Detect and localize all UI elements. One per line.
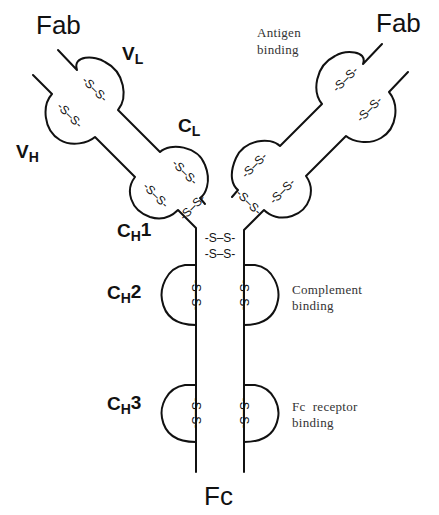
fc-receptor-binding-label: Fc receptor binding — [292, 399, 375, 430]
complement-binding-label: Complement binding — [292, 282, 366, 313]
vl-label: VL — [122, 43, 144, 67]
svg-text:-S–S-: -S–S- — [237, 398, 251, 429]
svg-text:-S–S-: -S–S- — [189, 398, 203, 429]
ss-ch2-left: -S–S- — [189, 280, 203, 311]
svg-text:-S–S-: -S–S- — [169, 156, 201, 188]
svg-text:-S–S-: -S–S- — [54, 99, 86, 131]
svg-text:-S–S-: -S–S- — [266, 175, 298, 207]
svg-text:-S–S-: -S–S- — [189, 280, 203, 311]
ch2-label: CH2 — [107, 281, 141, 306]
svg-text:-S–S-: -S–S- — [353, 93, 385, 125]
svg-text:-S–S-: -S–S- — [140, 179, 172, 211]
ss-ch1-right: -S–S- — [266, 175, 298, 207]
ss-cl: -S–S- — [169, 156, 201, 188]
cl-label: CL — [178, 115, 201, 139]
ss-ch3-left: -S–S- — [189, 398, 203, 429]
fab-left-label: Fab — [36, 10, 81, 40]
ch3-label: CH3 — [107, 392, 141, 417]
ss-ch2-right: -S–S- — [237, 280, 251, 311]
ss-vh: -S–S- — [54, 99, 86, 131]
fc-label: Fc — [204, 481, 233, 511]
svg-text:-S–S-: -S–S- — [237, 280, 251, 311]
ss-vl-right: -S–S- — [329, 63, 361, 95]
svg-text:-S–S-: -S–S- — [238, 149, 270, 181]
ss-ch3-right: -S–S- — [237, 398, 251, 429]
svg-text:-S–S-: -S–S- — [79, 73, 111, 105]
ss-vl: -S–S- — [79, 73, 111, 105]
ss-cl-right: -S–S- — [238, 149, 270, 181]
ss-vh-right: -S–S- — [353, 93, 385, 125]
antibody-diagram: -S–S- -S–S- -S–S- -S–S- -S–S- -S–S- -S–S… — [0, 0, 439, 515]
fab-right-label: Fab — [376, 8, 421, 38]
vh-label: VH — [16, 141, 39, 165]
hinge-ss-2: -S–S- — [205, 247, 236, 261]
ch1-label: CH1 — [117, 219, 152, 244]
svg-text:-S–S-: -S–S- — [329, 63, 361, 95]
hinge-ss-1: -S–S- — [205, 231, 236, 245]
antigen-binding-label: Antigen binding — [257, 25, 305, 57]
ss-ch1: -S–S- — [140, 179, 172, 211]
